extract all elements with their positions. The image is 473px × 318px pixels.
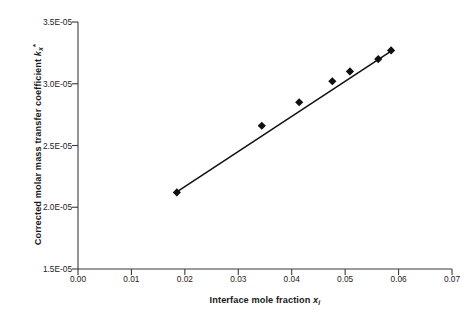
data-point-marker bbox=[296, 99, 302, 105]
trend-line bbox=[177, 51, 391, 192]
axes bbox=[78, 22, 452, 269]
x-axis-ticks bbox=[78, 269, 452, 275]
y-axis-ticks bbox=[72, 22, 78, 269]
fit-line-segment bbox=[177, 51, 391, 192]
data-point-marker bbox=[347, 68, 353, 74]
data-point-marker bbox=[259, 123, 265, 129]
chart-figure: Corrected molar mass transfer coefficien… bbox=[0, 0, 473, 318]
plot-area bbox=[0, 0, 473, 318]
data-point-marker bbox=[329, 78, 335, 84]
